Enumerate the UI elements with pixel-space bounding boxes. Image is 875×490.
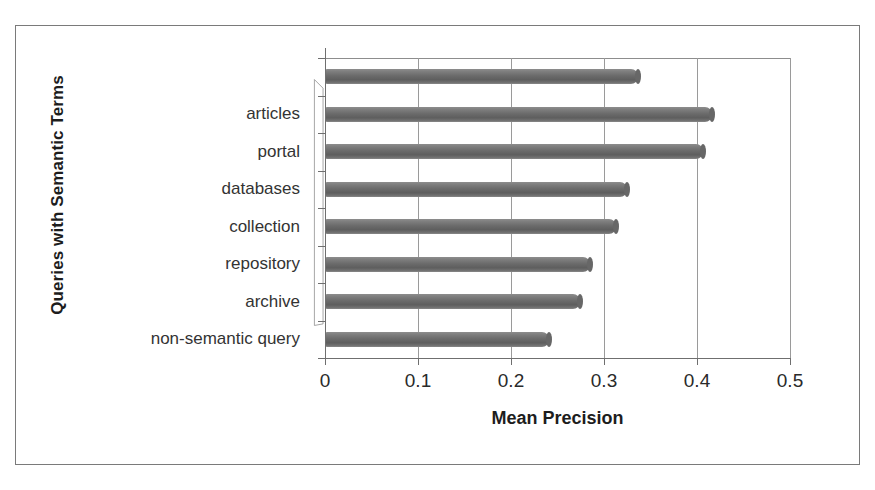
y-axis-tick — [318, 208, 325, 209]
y-axis-tick — [318, 358, 325, 359]
bar — [325, 332, 549, 347]
bar — [325, 107, 712, 122]
figure: Queries with Semantic Terms articlesport… — [0, 0, 875, 490]
x-axis-line — [325, 358, 791, 359]
bar — [325, 257, 590, 272]
y-axis-tick — [318, 133, 325, 134]
x-axis-tick-label: 0.3 — [574, 370, 634, 392]
plot-top-edge — [325, 58, 790, 59]
y-axis-line — [325, 48, 326, 358]
gridline — [604, 58, 605, 358]
y-axis-tick-label: archive — [95, 293, 300, 311]
x-axis-title: Mean Precision — [325, 408, 790, 429]
gridline — [511, 58, 512, 358]
y-axis-tick-label: portal — [95, 143, 300, 161]
y-axis-tick-labels: articlesportaldatabasescollectionreposit… — [95, 58, 300, 358]
bar — [325, 219, 616, 234]
x-axis-tick-label: 0.1 — [388, 370, 448, 392]
bar — [325, 144, 703, 159]
bar — [325, 182, 627, 197]
bar — [325, 69, 638, 84]
x-axis-tick — [790, 358, 791, 365]
gridline — [790, 58, 791, 358]
x-axis-tick — [697, 358, 698, 365]
y-axis-tick-label: databases — [95, 180, 300, 198]
y-axis-tick — [318, 246, 325, 247]
y-axis-tick-label: repository — [95, 255, 300, 273]
gridline — [418, 58, 419, 358]
bar — [325, 294, 580, 309]
x-axis-tick-label: 0.2 — [481, 370, 541, 392]
x-axis-tick-label: 0 — [295, 370, 355, 392]
x-axis-tick — [511, 358, 512, 365]
y-axis-tick — [318, 321, 325, 322]
x-axis-tick — [325, 358, 326, 365]
x-axis-tick — [418, 358, 419, 365]
y-axis-tick-label: non-semantic query — [95, 330, 300, 348]
x-axis-tick-label: 0.4 — [667, 370, 727, 392]
y-axis-tick — [318, 58, 325, 59]
plot-area — [325, 58, 790, 358]
y-axis-tick — [318, 96, 325, 97]
y-axis-tick — [318, 283, 325, 284]
x-axis-tick — [604, 358, 605, 365]
axis-depth-bevel — [314, 47, 325, 358]
gridline — [697, 58, 698, 358]
y-axis-title: Queries with Semantic Terms — [48, 75, 68, 315]
y-axis-tick-label: collection — [95, 218, 300, 236]
y-axis-tick-label: articles — [95, 105, 300, 123]
y-axis-tick — [318, 171, 325, 172]
x-axis-tick-label: 0.5 — [760, 370, 820, 392]
